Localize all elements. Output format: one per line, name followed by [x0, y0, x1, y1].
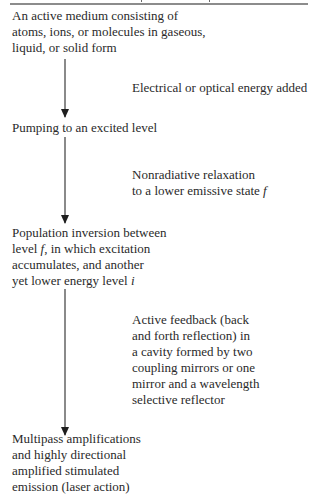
cropped-title-descender: [209, 0, 210, 2]
step-line: Population inversion between: [12, 225, 167, 241]
arrow-down-2: [64, 137, 66, 223]
cropped-title-descender: [141, 0, 142, 2]
step-line: accumulates, and another: [12, 257, 167, 273]
transition-label-energy-added: Electrical or optical energy added: [132, 80, 307, 96]
transition-label-line: to a lower emissive state f: [132, 183, 267, 199]
transition-label-nonradiative: Nonradiative relaxation to a lower emiss…: [132, 167, 267, 199]
step-pumping: Pumping to an excited level: [12, 120, 157, 136]
arrowhead-icon: [61, 215, 69, 224]
header-rule: [10, 3, 308, 5]
step-line: yet lower energy level i: [12, 273, 167, 289]
label-text: , in which excitation: [44, 241, 150, 256]
step-line: level f, in which excitation: [12, 241, 167, 257]
arrowhead-icon: [61, 109, 69, 118]
step-active-medium: An active medium consisting of atoms, io…: [12, 8, 206, 56]
label-text: to a lower emissive state: [132, 183, 263, 198]
variable-i: i: [131, 273, 135, 288]
variable-f: f: [263, 183, 267, 198]
transition-label-active-feedback: Active feedback (back and forth reflecti…: [132, 312, 259, 408]
label-text: level: [12, 241, 41, 256]
label-text: yet lower energy level: [12, 273, 131, 288]
step-multipass-emission: Multipass amplifications and highly dire…: [12, 431, 141, 495]
arrow-down-3: [64, 289, 66, 435]
arrow-down-1: [64, 59, 66, 117]
step-population-inversion: Population inversion between level f, in…: [12, 225, 167, 289]
transition-label-line: Nonradiative relaxation: [132, 167, 267, 183]
